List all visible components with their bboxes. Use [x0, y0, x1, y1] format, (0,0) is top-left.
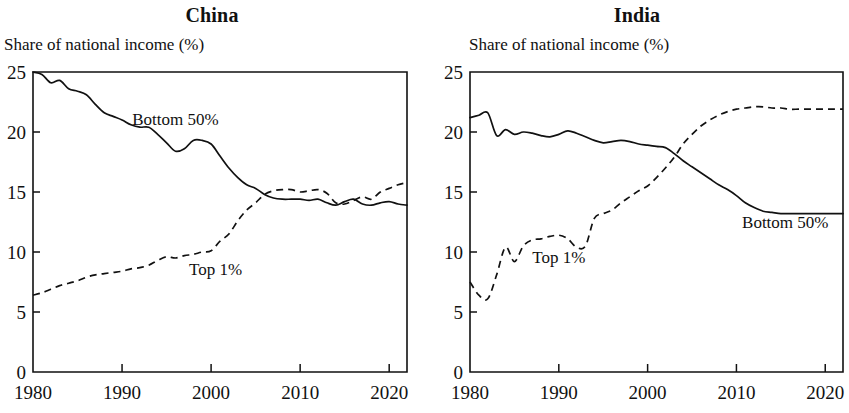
series-annotation-bottom-50: Bottom 50% — [132, 110, 218, 129]
y-tick-label: 25 — [444, 62, 463, 83]
y-tick-label: 10 — [7, 242, 26, 263]
y-tick-label: 15 — [7, 182, 26, 203]
chart-panel-india: India Share of national income (%) 05101… — [425, 0, 849, 413]
x-tick-label: 2020 — [806, 382, 844, 403]
y-tick-label: 0 — [454, 362, 464, 383]
y-tick-label: 10 — [444, 242, 463, 263]
x-tick-label: 2000 — [629, 382, 667, 403]
series-line-top-1 — [470, 107, 843, 300]
y-tick-label: 15 — [444, 182, 463, 203]
x-tick-label: 1980 — [451, 382, 489, 403]
x-tick-label: 2010 — [717, 382, 755, 403]
y-tick-label: 25 — [7, 62, 26, 83]
x-tick-label: 1980 — [14, 382, 52, 403]
x-tick-label: 2020 — [370, 382, 408, 403]
x-tick-label: 1990 — [540, 382, 578, 403]
x-tick-label: 2010 — [281, 382, 319, 403]
series-line-bottom-50 — [33, 72, 407, 205]
x-tick-label: 1990 — [103, 382, 141, 403]
figure-root: China Share of national income (%) 05101… — [0, 0, 849, 413]
y-tick-label: 20 — [444, 122, 463, 143]
series-annotation-top-1: Top 1% — [189, 260, 242, 279]
chart-panel-china: China Share of national income (%) 05101… — [0, 0, 424, 413]
series-line-bottom-50 — [470, 112, 843, 214]
y-tick-label: 0 — [17, 362, 27, 383]
y-tick-label: 5 — [454, 302, 464, 323]
series-annotation-top-1: Top 1% — [532, 248, 585, 267]
y-tick-label: 5 — [17, 302, 27, 323]
axis-frame — [33, 72, 407, 372]
series-annotation-bottom-50: Bottom 50% — [742, 213, 828, 232]
y-tick-label: 20 — [7, 122, 26, 143]
x-tick-label: 2000 — [192, 382, 230, 403]
plot-area-india: 051015202519801990200020102020Bottom 50%… — [425, 0, 849, 413]
plot-area-china: 051015202519801990200020102020Bottom 50%… — [0, 0, 424, 413]
